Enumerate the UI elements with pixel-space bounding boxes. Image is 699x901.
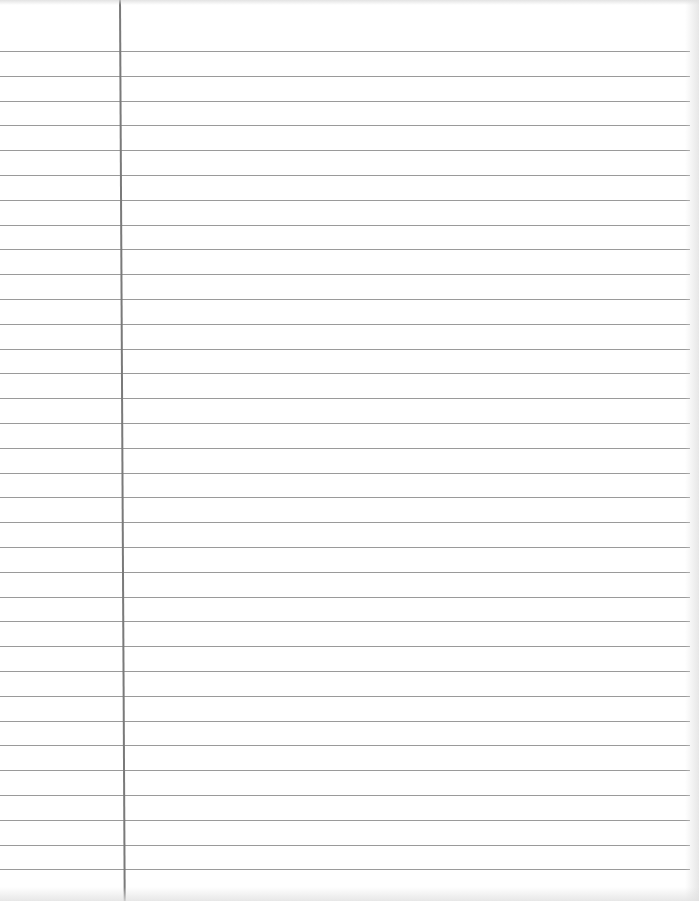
ruled-line: [0, 795, 690, 796]
ruled-line: [0, 349, 690, 350]
ruled-line: [0, 76, 690, 77]
ruled-line: [0, 274, 690, 275]
ruled-line: [0, 621, 690, 622]
ruled-line: [0, 745, 690, 746]
right-edge-shadow: [685, 0, 699, 901]
ruled-line: [0, 448, 690, 449]
ruled-line: [0, 820, 690, 821]
ruled-line: [0, 572, 690, 573]
ruled-line: [0, 125, 690, 126]
ruled-line: [0, 597, 690, 598]
ruled-line: [0, 696, 690, 697]
ruled-line: [0, 522, 690, 523]
ruled-line: [0, 423, 690, 424]
lined-paper-page: [0, 0, 699, 901]
ruled-line: [0, 671, 690, 672]
ruled-line: [0, 150, 690, 151]
ruled-line: [0, 497, 690, 498]
ruled-line: [0, 225, 690, 226]
ruled-line: [0, 547, 690, 548]
ruled-line: [0, 646, 690, 647]
ruled-line: [0, 845, 690, 846]
top-edge-shadow: [0, 0, 699, 5]
ruled-line: [0, 398, 690, 399]
ruled-line: [0, 299, 690, 300]
margin-line: [119, 0, 125, 901]
ruled-line: [0, 473, 690, 474]
ruled-line: [0, 770, 690, 771]
ruled-line: [0, 175, 690, 176]
ruled-line: [0, 373, 690, 374]
ruled-line: [0, 200, 690, 201]
ruled-line: [0, 101, 690, 102]
ruled-line: [0, 721, 690, 722]
ruled-line: [0, 249, 690, 250]
ruled-line: [0, 51, 690, 52]
ruled-line: [0, 869, 690, 870]
ruled-line: [0, 324, 690, 325]
bottom-edge-shadow: [0, 887, 699, 901]
